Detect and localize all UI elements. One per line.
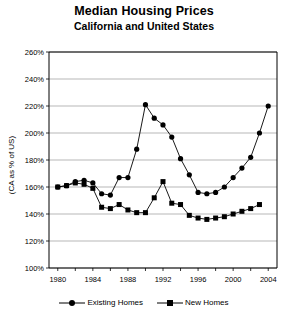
y-tick-label: 180% bbox=[25, 156, 45, 165]
data-point-square bbox=[90, 186, 95, 191]
data-point-square bbox=[82, 182, 87, 187]
y-tick-label: 200% bbox=[25, 129, 45, 138]
data-point-square bbox=[257, 202, 262, 207]
data-point-square bbox=[108, 206, 113, 211]
x-tick-label: 1984 bbox=[85, 275, 102, 284]
data-point-square bbox=[117, 202, 122, 207]
data-point-circle bbox=[99, 191, 104, 196]
data-point-square bbox=[248, 206, 253, 211]
data-point-square bbox=[55, 185, 60, 190]
plot-area: 100%120%140%160%180%200%220%240%260%1980… bbox=[0, 0, 288, 325]
data-point-square bbox=[196, 216, 201, 221]
data-point-circle bbox=[134, 147, 139, 152]
legend-item-existing-homes: Existing Homes bbox=[59, 298, 143, 308]
data-point-circle bbox=[187, 172, 192, 177]
data-point-circle bbox=[117, 175, 122, 180]
data-point-circle bbox=[169, 134, 174, 139]
y-tick-label: 100% bbox=[25, 264, 45, 273]
x-tick-label: 2004 bbox=[260, 275, 277, 284]
y-tick-label: 240% bbox=[25, 75, 45, 84]
y-tick-label: 140% bbox=[25, 210, 45, 219]
legend-marker-circle-icon bbox=[59, 298, 85, 308]
data-point-circle bbox=[143, 102, 148, 107]
data-point-circle bbox=[108, 193, 113, 198]
data-point-square bbox=[99, 205, 104, 210]
data-point-square bbox=[231, 212, 236, 217]
x-tick-label: 1992 bbox=[155, 275, 172, 284]
legend-item-new-homes: New Homes bbox=[157, 298, 229, 308]
legend-marker-square-icon bbox=[157, 298, 183, 308]
data-point-square bbox=[204, 217, 209, 222]
data-point-circle bbox=[231, 175, 236, 180]
series-new-homes bbox=[55, 179, 262, 222]
data-point-square bbox=[169, 201, 174, 206]
data-point-square bbox=[152, 195, 157, 200]
x-tick-label: 1988 bbox=[120, 275, 137, 284]
data-point-square bbox=[222, 214, 227, 219]
data-point-circle bbox=[213, 190, 218, 195]
data-point-circle bbox=[248, 155, 253, 160]
legend-label-existing-homes: Existing Homes bbox=[87, 298, 143, 308]
data-point-circle bbox=[125, 175, 130, 180]
data-point-square bbox=[187, 213, 192, 218]
y-tick-label: 220% bbox=[25, 102, 45, 111]
data-point-circle bbox=[239, 166, 244, 171]
y-tick-label: 160% bbox=[25, 183, 45, 192]
data-point-circle bbox=[90, 180, 95, 185]
data-point-square bbox=[143, 210, 148, 215]
legend-label-new-homes: New Homes bbox=[185, 298, 229, 308]
data-point-square bbox=[64, 183, 69, 188]
data-point-circle bbox=[204, 191, 209, 196]
data-point-square bbox=[73, 180, 78, 185]
data-point-square bbox=[213, 216, 218, 221]
data-point-circle bbox=[222, 184, 227, 189]
data-point-circle bbox=[178, 156, 183, 161]
data-point-square bbox=[134, 210, 139, 215]
data-point-square bbox=[161, 179, 166, 184]
data-point-square bbox=[178, 202, 183, 207]
data-point-circle bbox=[266, 103, 271, 108]
x-tick-label: 1996 bbox=[190, 275, 207, 284]
chart-container: Median Housing Prices California and Uni… bbox=[0, 0, 288, 325]
data-point-circle bbox=[195, 190, 200, 195]
x-tick-label: 2000 bbox=[225, 275, 242, 284]
x-tick-label: 1980 bbox=[49, 275, 66, 284]
y-tick-label: 120% bbox=[25, 237, 45, 246]
data-point-circle bbox=[160, 122, 165, 127]
y-tick-label: 260% bbox=[25, 48, 45, 57]
data-point-square bbox=[239, 209, 244, 214]
chart-legend: Existing Homes New Homes bbox=[0, 298, 288, 308]
data-point-circle bbox=[257, 130, 262, 135]
data-point-square bbox=[125, 207, 130, 212]
data-point-circle bbox=[152, 116, 157, 121]
